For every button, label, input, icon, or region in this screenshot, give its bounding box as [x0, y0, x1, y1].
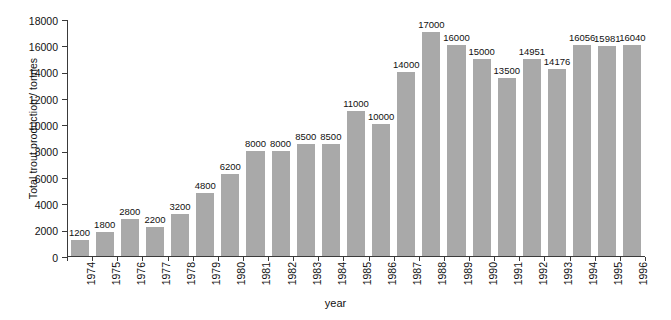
y-tick-label: 2000 — [35, 225, 58, 237]
bar-value-label: 14000 — [393, 59, 419, 70]
y-tick: 8000 — [62, 152, 67, 153]
x-tick — [117, 257, 118, 261]
bar: 14951 — [523, 59, 541, 256]
bar: 14000 — [397, 72, 415, 256]
bar: 15981 — [598, 46, 616, 256]
x-tick — [369, 257, 370, 261]
x-tick — [318, 257, 319, 261]
y-tick-label: 18000 — [29, 15, 58, 27]
x-axis-label: 1985 — [361, 262, 373, 285]
x-tick — [67, 257, 68, 261]
x-axis-label: 1982 — [286, 262, 298, 285]
x-axis-label: 1996 — [637, 262, 649, 285]
y-tick-label: 4000 — [35, 199, 58, 211]
x-axis-label: 1994 — [587, 262, 599, 285]
x-tick — [494, 257, 495, 261]
x-axis-label: 1991 — [512, 262, 524, 285]
y-tick-label: 16000 — [29, 41, 58, 53]
bar: 16056 — [573, 45, 591, 256]
x-tick — [444, 257, 445, 261]
y-tick: 6000 — [62, 178, 67, 179]
bar-value-label: 16056 — [569, 32, 595, 43]
bar: 2800 — [121, 219, 139, 256]
bar-value-label: 2800 — [119, 206, 140, 217]
x-axis-label: 1974 — [85, 262, 97, 285]
y-tick: 16000 — [62, 46, 67, 47]
bar: 14176 — [548, 69, 566, 256]
bar-value-label: 8000 — [270, 138, 291, 149]
y-tick: 2000 — [62, 231, 67, 232]
bar-value-label: 16040 — [619, 32, 645, 43]
y-tick-label: 0 — [52, 252, 58, 264]
bar-value-label: 13500 — [494, 65, 520, 76]
bar-value-label: 4800 — [195, 180, 216, 191]
x-tick — [243, 257, 244, 261]
x-tick — [469, 257, 470, 261]
x-tick — [544, 257, 545, 261]
bar: 16040 — [623, 45, 641, 256]
bar-value-label: 2200 — [144, 214, 165, 225]
x-tick — [595, 257, 596, 261]
bar: 2200 — [146, 227, 164, 256]
bar: 1800 — [96, 232, 114, 256]
x-tick — [570, 257, 571, 261]
bar: 8000 — [246, 151, 264, 256]
bar-value-label: 8500 — [320, 131, 341, 142]
y-tick: 12000 — [62, 99, 67, 100]
y-tick-label: 14000 — [29, 67, 58, 79]
bar-value-label: 8500 — [295, 131, 316, 142]
bar: 3200 — [171, 214, 189, 256]
x-axis-label: 1978 — [185, 262, 197, 285]
y-tick-label: 12000 — [29, 94, 58, 106]
y-tick: 18000 — [62, 20, 67, 21]
bar: 16000 — [447, 45, 465, 256]
bar: 8000 — [272, 151, 290, 256]
bar: 17000 — [422, 32, 440, 256]
x-axis-label: 1976 — [135, 262, 147, 285]
bar: 8500 — [322, 144, 340, 256]
x-axis-label: 1993 — [562, 262, 574, 285]
bar: 1200 — [71, 240, 89, 256]
bar-value-label: 17000 — [418, 19, 444, 30]
x-tick — [142, 257, 143, 261]
x-axis-label: 1988 — [436, 262, 448, 285]
bar-value-label: 14951 — [519, 46, 545, 57]
bar-value-label: 1200 — [69, 227, 90, 238]
bar-value-label: 6200 — [220, 161, 241, 172]
x-axis-label: 1989 — [462, 262, 474, 285]
bar: 15000 — [473, 59, 491, 257]
bar-value-label: 1800 — [94, 219, 115, 230]
x-axis-title: year — [0, 297, 671, 309]
x-axis-line — [67, 256, 645, 257]
bar-value-label: 16000 — [443, 32, 469, 43]
bar: 6200 — [221, 174, 239, 256]
y-tick: 4000 — [62, 204, 67, 205]
x-axis-label: 1981 — [260, 262, 272, 285]
x-axis-label: 1975 — [110, 262, 122, 285]
x-tick — [168, 257, 169, 261]
bar-value-label: 14176 — [544, 56, 570, 67]
x-axis-label: 1995 — [612, 262, 624, 285]
x-tick — [394, 257, 395, 261]
x-tick — [193, 257, 194, 261]
x-axis-label: 1984 — [336, 262, 348, 285]
plot-area: 0200040006000800010000120001400016000180… — [67, 20, 645, 257]
y-tick-label: 6000 — [35, 173, 58, 185]
x-axis-label: 1986 — [386, 262, 398, 285]
x-axis-label: 1980 — [235, 262, 247, 285]
bar: 10000 — [372, 124, 390, 256]
y-tick-label: 10000 — [29, 120, 58, 132]
x-tick — [645, 257, 646, 261]
x-axis-label: 1990 — [487, 262, 499, 285]
x-axis-label: 1977 — [160, 262, 172, 285]
x-axis-label: 1983 — [311, 262, 323, 285]
x-tick — [268, 257, 269, 261]
y-tick: 10000 — [62, 125, 67, 126]
x-tick — [218, 257, 219, 261]
bar-value-label: 11000 — [343, 98, 369, 109]
bar-value-label: 15000 — [468, 46, 494, 57]
x-tick — [343, 257, 344, 261]
bar-chart: Total trout production / tonnes 02000400… — [0, 0, 671, 320]
y-tick-label: 8000 — [35, 146, 58, 158]
y-axis-line — [67, 20, 68, 257]
